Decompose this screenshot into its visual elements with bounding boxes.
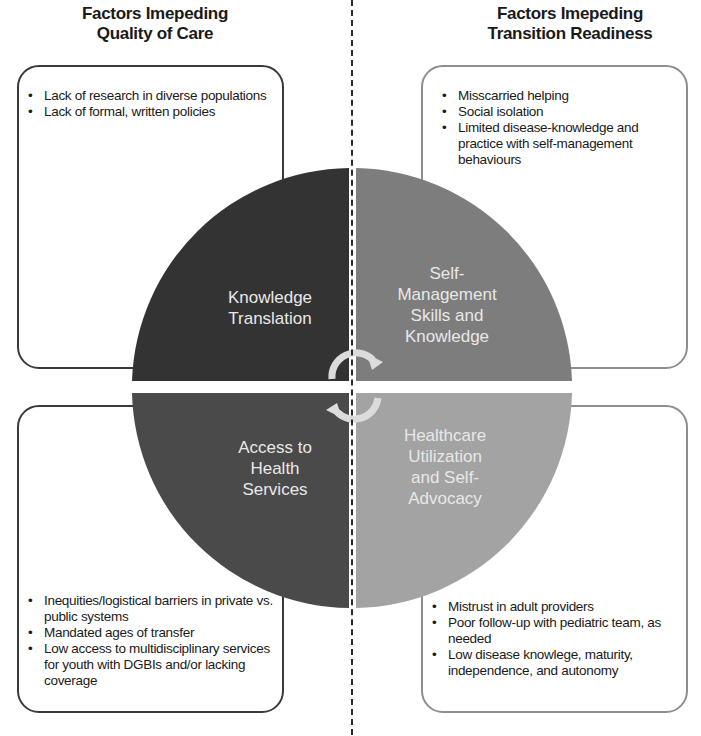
quadrant-access-health (132, 393, 349, 608)
footer-partial-text (0, 722, 701, 736)
label-line: Knowledge (205, 287, 335, 308)
list-item: Lack of research in diverse populations (26, 88, 276, 104)
label-self-management: Self- Management Skills and Knowledge (372, 263, 522, 347)
label-line: Translation (205, 308, 335, 329)
label-access-health: Access to Health Services (210, 437, 340, 500)
list-item: Social isolation (440, 104, 680, 120)
cycle-arrows-icon (326, 353, 383, 419)
list-item: Poor follow-up with pediatric team, as n… (430, 615, 685, 647)
list-item: Lack of formal, written policies (26, 104, 276, 120)
label-healthcare-utilization: Healthcare Utilization and Self- Advocac… (370, 425, 520, 509)
label-line: Knowledge (372, 326, 522, 347)
quadrant-knowledge-translation (132, 168, 349, 381)
label-line: Management (372, 284, 522, 305)
list-item: Misscarried helping (440, 88, 680, 104)
list-item: Low access to multidisciplinary services… (26, 641, 276, 689)
label-line: Healthcare (370, 425, 520, 446)
label-line: Services (210, 479, 340, 500)
list-top-left: Lack of research in diverse populations … (26, 88, 276, 120)
label-line: Health (210, 458, 340, 479)
label-line: and Self- (370, 467, 520, 488)
label-line: Access to (210, 437, 340, 458)
list-item: Limited disease-knowledge and practice w… (440, 120, 680, 168)
label-knowledge-translation: Knowledge Translation (205, 287, 335, 329)
list-item: Low disease knowlege, maturity, independ… (430, 647, 685, 679)
list-top-right: Misscarried helping Social isolation Lim… (440, 88, 680, 168)
list-item: Mandated ages of transfer (26, 625, 276, 641)
dashed-divider (351, 0, 353, 735)
label-line: Utilization (370, 446, 520, 467)
list-item: Mistrust in adult providers (430, 599, 685, 615)
label-line: Advocacy (370, 488, 520, 509)
label-line: Skills and (372, 305, 522, 326)
list-bottom-left: Inequities/logistical barriers in privat… (26, 593, 276, 689)
label-line: Self- (372, 263, 522, 284)
list-bottom-right: Mistrust in adult providers Poor follow-… (430, 599, 685, 679)
list-item: Inequities/logistical barriers in privat… (26, 593, 276, 625)
